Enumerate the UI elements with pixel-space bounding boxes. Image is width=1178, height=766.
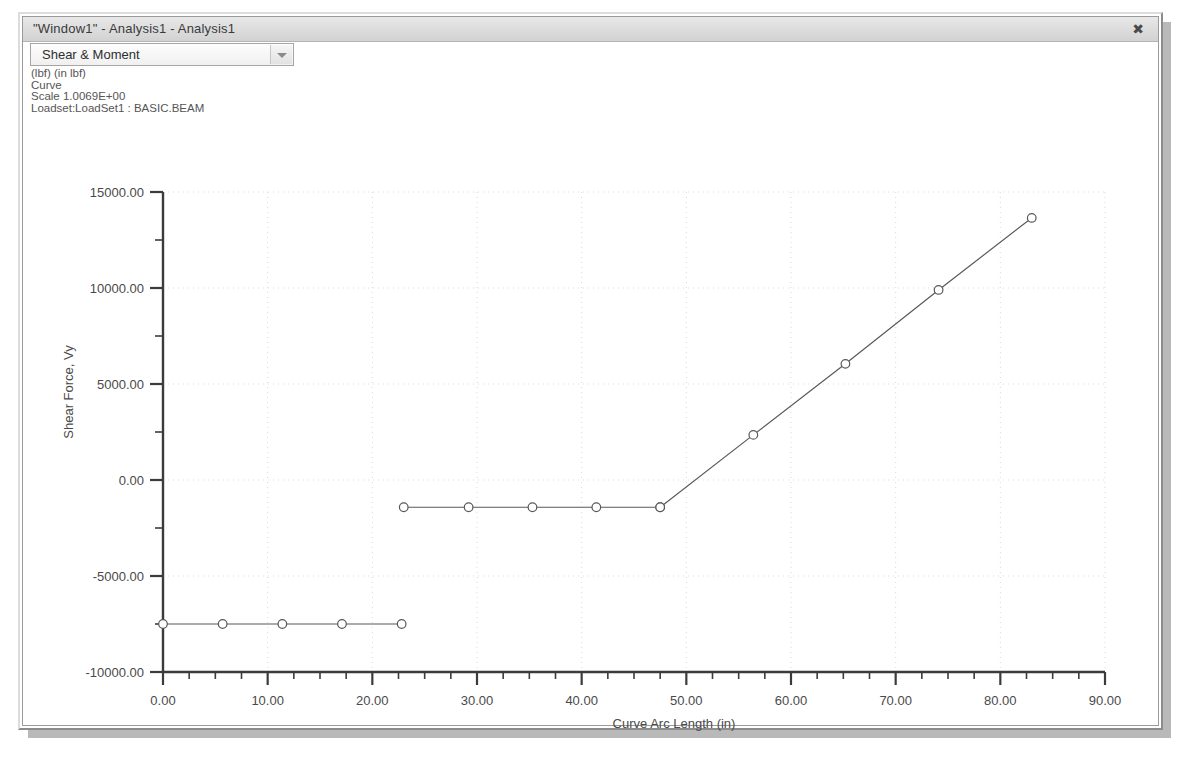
x-tick-label: 80.00: [984, 693, 1017, 708]
data-point-marker: [592, 503, 601, 512]
y-tick-label: 15000.00: [90, 185, 144, 200]
chart-series: [159, 214, 1036, 629]
y-tick-label: 5000.00: [97, 377, 144, 392]
screen-root: "Window1" - Analysis1 - Analysis1 ✖ Shea…: [0, 0, 1178, 766]
x-tick-label: 40.00: [565, 693, 598, 708]
x-tick-label: 10.00: [251, 693, 284, 708]
data-point-marker: [656, 503, 665, 512]
y-tick-label: 10000.00: [90, 281, 144, 296]
data-point-marker: [934, 286, 943, 295]
data-point-marker: [749, 431, 758, 440]
x-tick-label: 50.00: [670, 693, 703, 708]
x-tick-label: 0.00: [150, 693, 175, 708]
x-axis-title: Curve Arc Length (in): [613, 716, 736, 731]
data-point-marker: [159, 620, 168, 629]
y-axis-title: Shear Force, Vy: [61, 345, 76, 439]
data-point-marker: [841, 360, 850, 369]
y-tick-label: -5000.00: [93, 569, 144, 584]
x-tick-label: 60.00: [775, 693, 808, 708]
data-point-marker: [218, 620, 227, 629]
analysis-window: "Window1" - Analysis1 - Analysis1 ✖ Shea…: [18, 12, 1163, 730]
window-client-area: "Window1" - Analysis1 - Analysis1 ✖ Shea…: [22, 16, 1159, 726]
data-point-marker: [464, 503, 473, 512]
x-tick-label: 20.00: [356, 693, 389, 708]
data-point-marker: [399, 503, 408, 512]
data-point-marker: [278, 620, 287, 629]
x-tick-label: 70.00: [879, 693, 912, 708]
data-point-marker: [528, 503, 537, 512]
x-tick-label: 90.00: [1089, 693, 1122, 708]
chart-canvas: -10000.00-5000.000.005000.0010000.001500…: [23, 17, 1164, 731]
y-tick-label: -10000.00: [85, 665, 144, 680]
y-tick-label: 0.00: [119, 473, 144, 488]
chart-gridlines: [163, 192, 1105, 672]
data-point-marker: [338, 620, 347, 629]
data-point-marker: [1027, 214, 1036, 223]
chart-tick-labels: -10000.00-5000.000.005000.0010000.001500…: [85, 185, 1121, 709]
data-point-marker: [397, 620, 406, 629]
chart-axes: [150, 192, 1105, 685]
x-tick-label: 30.00: [461, 693, 494, 708]
shear-force-plot: -10000.00-5000.000.005000.0010000.001500…: [23, 17, 1164, 731]
